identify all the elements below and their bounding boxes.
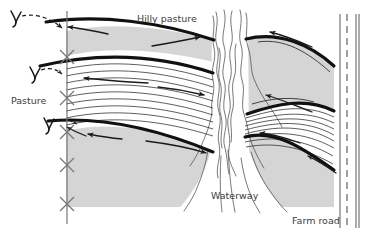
label-pasture: Pasture (11, 95, 47, 106)
contour-farming-diagram: Hilly pasture Pasture Waterway Farm road (0, 0, 366, 241)
outlet-symbol-2 (30, 67, 40, 83)
flow-arrow (158, 87, 204, 95)
label-hilly-pasture: Hilly pasture (137, 13, 197, 24)
left-contour-lines-group (66, 57, 213, 136)
farm-road (340, 14, 359, 228)
outlet-symbol-1 (11, 11, 21, 27)
figure-canvas: Hilly pasture Pasture Waterway Farm road (0, 0, 366, 241)
label-waterway: Waterway (211, 190, 259, 201)
label-farm-road: Farm road (292, 215, 340, 226)
terrace-line-left-2 (40, 57, 213, 73)
outlet-dashed-flow-2 (41, 69, 62, 74)
